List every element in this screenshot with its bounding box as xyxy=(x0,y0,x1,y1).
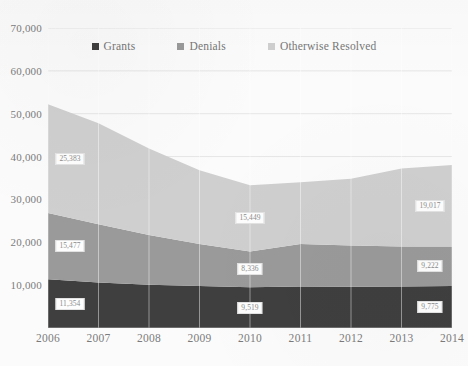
data-label: 9,519 xyxy=(237,302,262,314)
x-tick-label: 2006 xyxy=(36,332,60,344)
plot-svg xyxy=(48,28,452,328)
data-label: 19,017 xyxy=(415,200,444,212)
data-label: 9,775 xyxy=(417,301,442,313)
x-tick-label: 2009 xyxy=(187,332,211,344)
x-tick-label: 2013 xyxy=(389,332,413,344)
y-tick-label: 50,000 xyxy=(11,108,42,120)
y-tick-label: 10,000 xyxy=(11,279,42,291)
data-label: 9,222 xyxy=(417,260,442,272)
x-axis: 200620072008200920102011201220132014 xyxy=(48,332,452,354)
legend-item-denials: Denials xyxy=(177,40,226,52)
chart-legend: Grants Denials Otherwise Resolved xyxy=(0,36,468,56)
legend-label-grants: Grants xyxy=(104,40,136,52)
legend-item-otherwise-resolved: Otherwise Resolved xyxy=(268,40,377,52)
legend-label-denials: Denials xyxy=(189,40,226,52)
plot-area: 11,3549,5199,77515,4778,3369,22225,38315… xyxy=(48,28,452,328)
y-axis: 10,00020,00030,00040,00050,00060,00070,0… xyxy=(0,28,46,328)
data-label: 11,354 xyxy=(56,298,85,310)
legend-swatch-otherwise-resolved xyxy=(268,43,275,50)
y-tick-label: 30,000 xyxy=(11,193,42,205)
x-tick-label: 2011 xyxy=(289,332,313,344)
data-label: 15,449 xyxy=(235,212,264,224)
legend-swatch-denials xyxy=(177,43,184,50)
stacked-area-chart: Grants Denials Otherwise Resolved 10,000… xyxy=(0,0,468,366)
x-tick-label: 2008 xyxy=(137,332,161,344)
data-label: 25,383 xyxy=(55,153,84,165)
x-tick-label: 2010 xyxy=(238,332,262,344)
y-tick-label: 70,000 xyxy=(11,22,42,34)
y-tick-label: 20,000 xyxy=(11,236,42,248)
data-label: 15,477 xyxy=(55,240,84,252)
legend-label-otherwise-resolved: Otherwise Resolved xyxy=(280,40,377,52)
legend-item-grants: Grants xyxy=(92,40,136,52)
y-tick-label: 40,000 xyxy=(11,151,42,163)
y-tick-label: 60,000 xyxy=(11,65,42,77)
x-tick-label: 2007 xyxy=(86,332,110,344)
x-tick-label: 2014 xyxy=(440,332,464,344)
data-label: 8,336 xyxy=(237,263,262,275)
chart-title-cropped xyxy=(0,0,468,12)
legend-swatch-grants xyxy=(92,43,99,50)
x-tick-label: 2012 xyxy=(339,332,363,344)
